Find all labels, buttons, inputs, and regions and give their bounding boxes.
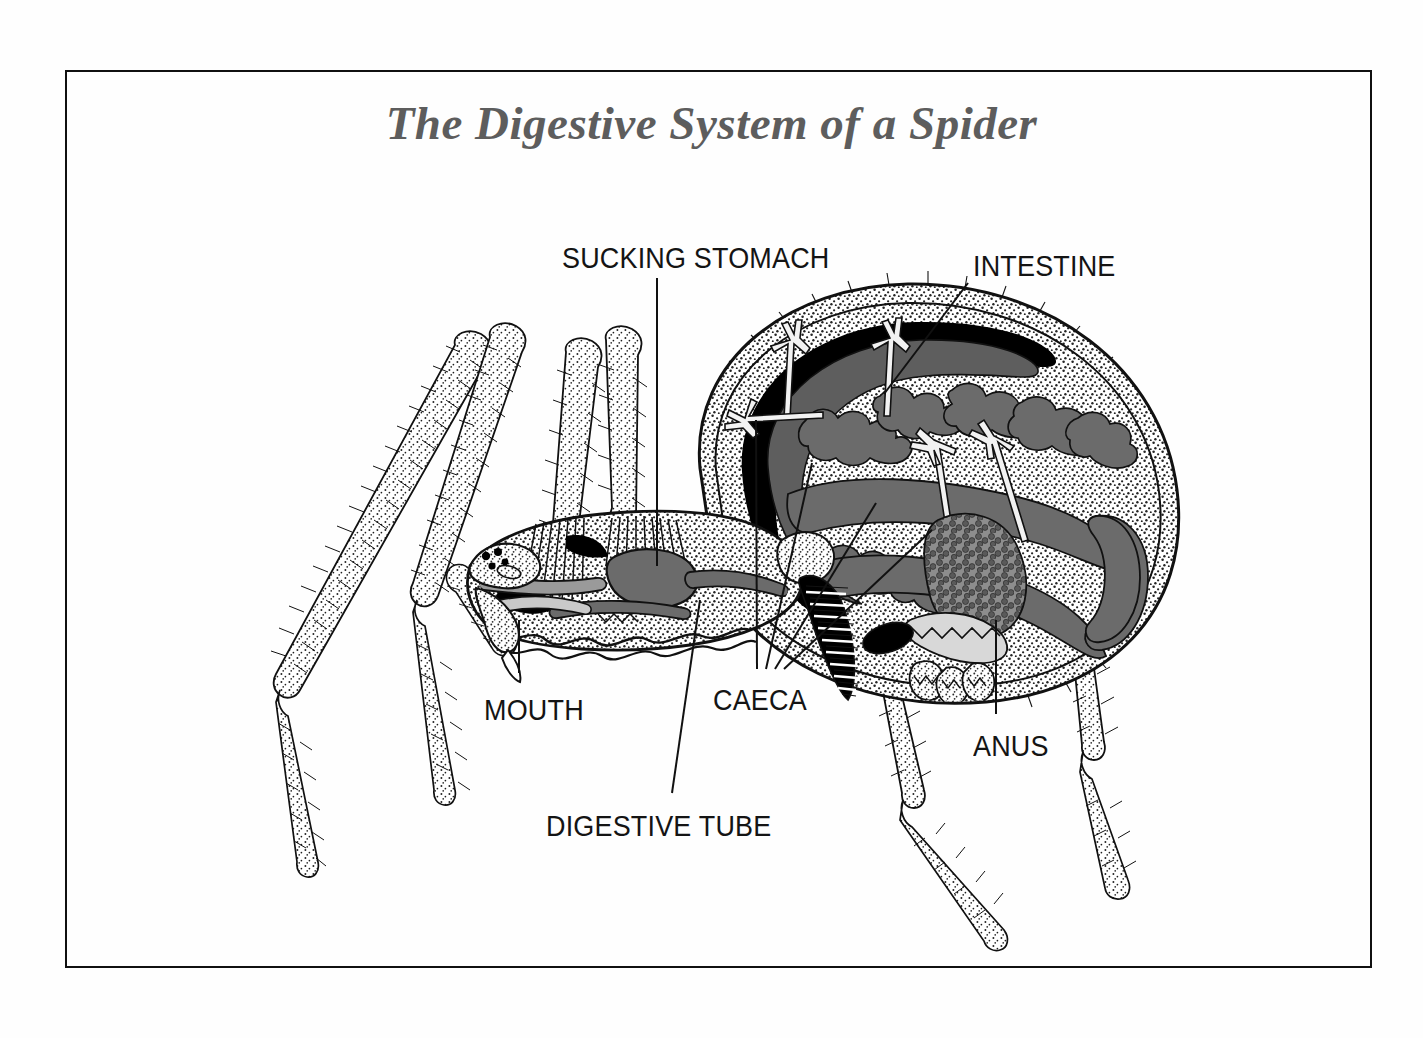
label-sucking-stomach: SUCKING STOMACH — [562, 242, 830, 275]
label-mouth: MOUTH — [484, 694, 584, 727]
figure-page: The Digestive System of a Spider — [0, 0, 1423, 1038]
page-title: The Digestive System of a Spider — [0, 96, 1423, 150]
label-intestine: INTESTINE — [973, 250, 1116, 283]
label-anus: ANUS — [973, 730, 1049, 763]
label-caeca: CAECA — [713, 684, 807, 717]
label-digestive-tube: DIGESTIVE TUBE — [546, 810, 771, 843]
